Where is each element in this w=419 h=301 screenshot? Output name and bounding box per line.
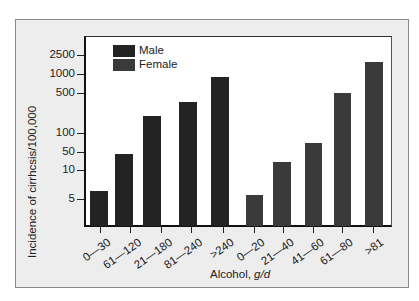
bar-female-0 [246, 195, 263, 226]
legend-swatch-male [113, 45, 135, 57]
bar-male-4 [211, 77, 229, 226]
y-tick-mark [77, 55, 84, 56]
y-tick-label: 2500 [40, 48, 75, 60]
bar-male-3 [179, 102, 197, 226]
y-tick-mark [77, 170, 84, 171]
x-tick-mark [313, 226, 314, 233]
y-tick-mark [77, 152, 84, 153]
legend-label-male: Male [139, 44, 164, 56]
legend-swatch-female [113, 59, 135, 71]
x-tick-mark [342, 226, 343, 233]
y-tick-mark [77, 74, 84, 75]
y-tick-mark [77, 93, 84, 94]
x-tick-mark [223, 226, 224, 233]
bar-female-1 [273, 162, 291, 226]
bar-male-2 [143, 116, 161, 226]
x-tick-mark [100, 226, 101, 233]
x-tick-mark [283, 226, 284, 233]
bar-female-3 [334, 93, 351, 226]
y-tick-label: 50 [40, 145, 75, 157]
y-axis-label: Incidence of cirrhcsis/100,000 [26, 106, 38, 258]
y-tick-label: 5 [40, 192, 75, 204]
y-tick-label: 100 [40, 126, 75, 138]
x-tick-mark [191, 226, 192, 233]
bar-male-0 [90, 191, 108, 226]
x-tick-mark [130, 226, 131, 233]
y-tick-label: 500 [40, 86, 75, 98]
x-axis-label: Alcohol, g/d [210, 268, 270, 280]
y-tick-mark [77, 133, 84, 134]
legend-label-female: Female [139, 58, 177, 70]
y-tick-label: 1000 [40, 67, 75, 79]
y-tick-mark [77, 199, 84, 200]
bar-female-4 [365, 62, 383, 226]
x-tick-mark [161, 226, 162, 233]
x-tick-mark [373, 226, 374, 233]
x-tick-mark [254, 226, 255, 233]
y-tick-label: 10 [40, 163, 75, 175]
bar-male-1 [115, 154, 133, 226]
bar-female-2 [305, 143, 322, 226]
